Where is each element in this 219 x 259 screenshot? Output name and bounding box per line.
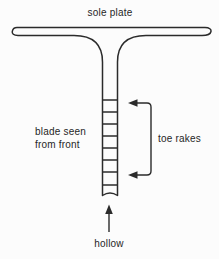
figure-canvas: sole plate blade seen from front toe rak… [0,0,219,259]
hollow-arrow [105,205,113,233]
blade-label-line2: from front [35,138,86,151]
hollow-label: hollow [74,237,144,250]
skate-blade-diagram [0,0,219,259]
toe-rake-lines [103,100,117,185]
blade-label-line1: blade seen [35,125,86,138]
toe-rakes-label: toe rakes [158,132,201,145]
toe-rakes-bottom-arrowhead [128,171,138,179]
toe-rakes-top-arrowhead [128,99,138,107]
toe-rakes-bracket-arrow [128,99,151,179]
hollow-arrowhead [105,205,113,215]
sole-plate-label: sole plate [55,6,165,19]
blade-label: blade seen from front [35,125,86,151]
